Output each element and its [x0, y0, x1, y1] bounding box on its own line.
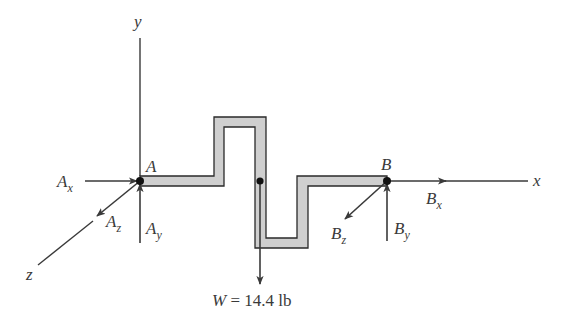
force-arrow-Az	[97, 181, 140, 216]
z-axis: z	[25, 221, 93, 284]
x-axis-label: x	[532, 171, 541, 190]
y-axis: y	[132, 12, 142, 176]
label-By: By	[394, 219, 410, 242]
x-axis: x	[445, 171, 541, 190]
label-Ay: Ay	[145, 219, 162, 242]
label-Bx: Bx	[426, 189, 442, 212]
point-B-label: B	[381, 155, 392, 174]
y-axis-label: y	[132, 12, 142, 31]
point-A-marker	[136, 177, 144, 185]
z-axis-line	[38, 221, 93, 265]
label-Ax: Ax	[56, 172, 73, 195]
point-B-marker	[383, 177, 391, 185]
free-body-diagram: y z x A B Ax Az Ay Bx Bz By W = 14.4 lb	[0, 0, 563, 331]
center-of-gravity-marker	[256, 177, 263, 184]
z-axis-label: z	[25, 265, 33, 284]
bent-rod	[140, 117, 387, 248]
force-arrow-Bz	[345, 181, 387, 219]
point-A-label: A	[145, 157, 157, 176]
label-Bz: Bz	[331, 224, 346, 247]
label-Az: Az	[105, 212, 121, 235]
weight-label: W = 14.4 lb	[212, 291, 292, 310]
